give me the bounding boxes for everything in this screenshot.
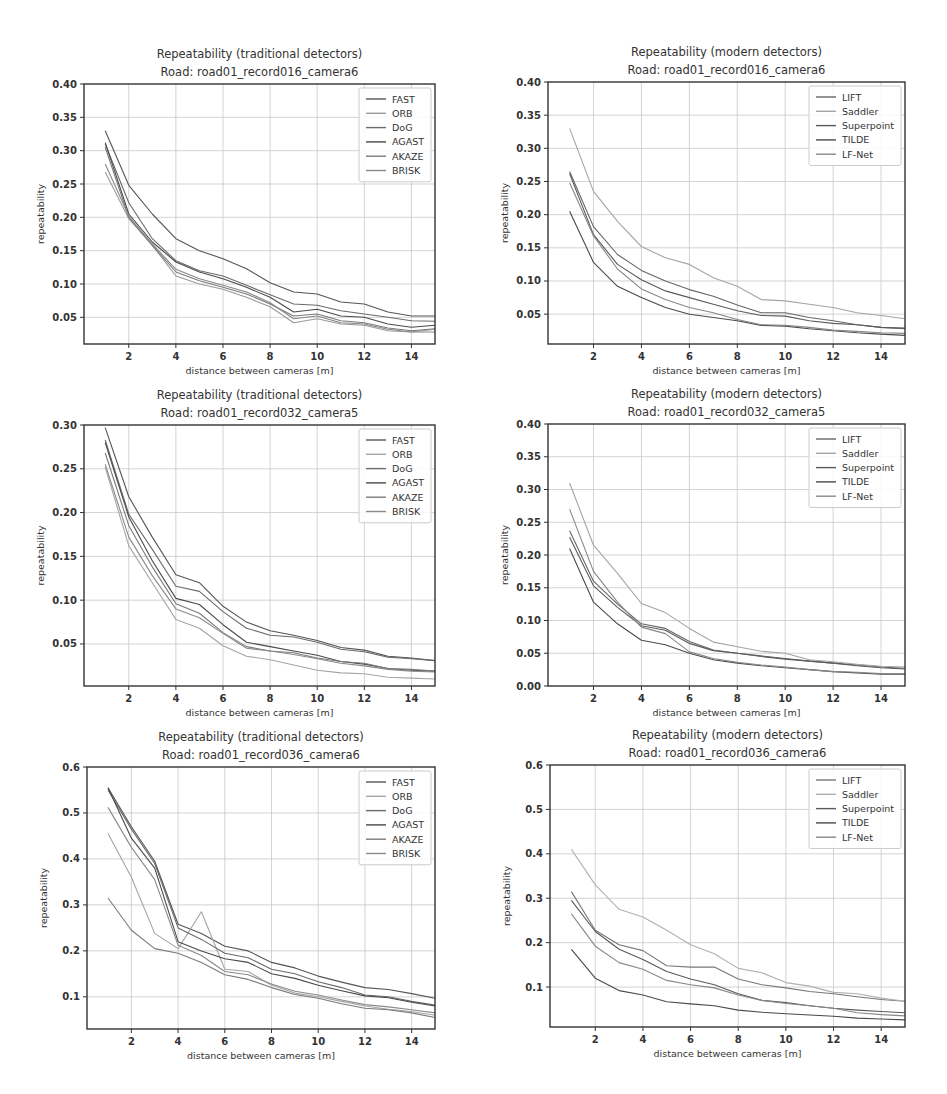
y-tick-label: 0.35: [516, 451, 541, 462]
legend-entry: Superpoint: [842, 120, 894, 131]
legend-entry: BRISK: [392, 848, 421, 859]
y-tick-label: 0.35: [516, 110, 541, 121]
chart-subtitle: Road: road01_record036_camera6: [629, 746, 827, 760]
legend: LIFTSaddlerSuperpointTILDELF-Net: [809, 769, 901, 849]
x-tick-label: 2: [590, 693, 597, 704]
y-axis-label: repeatability: [35, 184, 46, 244]
x-tick-label: 6: [687, 1034, 694, 1045]
y-axis-label: repeatability: [499, 525, 510, 585]
x-tick-label: 8: [735, 1034, 742, 1045]
y-tick-label: 0.20: [52, 212, 77, 223]
x-tick-label: 12: [826, 693, 840, 704]
x-tick-label: 8: [734, 693, 741, 704]
x-tick-label: 2: [592, 1034, 599, 1045]
y-tick-label: 0.20: [516, 209, 541, 220]
chart-panel: Repeatability (modern detectors)Road: ro…: [494, 717, 915, 1063]
y-tick-label: 0.40: [52, 79, 77, 90]
x-tick-label: 8: [267, 693, 274, 704]
legend-entry: LIFT: [842, 92, 861, 103]
legend-entry: DoG: [392, 805, 413, 816]
y-tick-label: 0.10: [52, 595, 77, 606]
x-tick-label: 4: [172, 351, 179, 362]
legend-entry: AKAZE: [392, 492, 424, 503]
x-tick-label: 12: [357, 693, 371, 704]
y-tick-label: 0.2: [525, 937, 543, 948]
chart-subtitle: Road: road01_record036_camera6: [162, 748, 360, 762]
y-tick-label: 0.30: [516, 484, 541, 495]
legend-entry: LF-Net: [842, 832, 873, 843]
legend-entry: AGAST: [392, 136, 424, 147]
y-tick-label: 0.3: [525, 893, 543, 904]
x-tick-label: 10: [310, 693, 324, 704]
x-tick-label: 2: [128, 1036, 135, 1047]
y-tick-label: 0.10: [516, 275, 541, 286]
y-axis-label: repeatability: [499, 183, 510, 243]
legend-entry: AGAST: [392, 477, 424, 488]
x-tick-label: 12: [827, 1034, 841, 1045]
chart-subtitle: Road: road01_record016_camera6: [628, 63, 826, 77]
x-tick-label: 4: [638, 351, 645, 362]
chart-panel: Repeatability (traditional detectors)Roa…: [28, 377, 445, 722]
x-tick-label: 2: [125, 693, 132, 704]
x-tick-label: 4: [638, 693, 645, 704]
x-tick-label: 8: [267, 351, 274, 362]
chart-title: Repeatability (traditional detectors): [157, 47, 363, 61]
y-tick-label: 0.30: [516, 143, 541, 154]
x-tick-label: 10: [778, 351, 792, 362]
legend-entry: Saddler: [842, 789, 878, 800]
x-tick-label: 2: [125, 351, 132, 362]
legend-entry: LF-Net: [842, 149, 873, 160]
x-tick-label: 6: [220, 351, 227, 362]
legend-entry: FAST: [392, 435, 415, 446]
legend-entry: LIFT: [842, 775, 861, 786]
y-tick-label: 0.4: [525, 848, 543, 859]
legend-entry: DoG: [392, 122, 413, 133]
x-tick-label: 14: [404, 693, 418, 704]
chart-subtitle: Road: road01_record032_camera5: [628, 405, 826, 419]
y-axis-label: repeatability: [501, 866, 512, 926]
y-tick-label: 0.3: [62, 899, 80, 910]
legend-entry: BRISK: [392, 165, 421, 176]
x-tick-label: 14: [405, 1036, 419, 1047]
legend-entry: AKAZE: [392, 151, 424, 162]
x-tick-label: 14: [874, 1034, 888, 1045]
legend-entry: ORB: [392, 791, 413, 802]
chart-title: Repeatability (modern detectors): [632, 728, 823, 742]
x-axis-label: distance between cameras [m]: [186, 365, 334, 376]
y-tick-label: 0.25: [516, 176, 541, 187]
legend-entry: AGAST: [392, 819, 424, 830]
x-axis-label: distance between cameras [m]: [654, 1048, 802, 1059]
legend-entry: Superpoint: [842, 803, 894, 814]
legend: LIFTSaddlerSuperpointTILDELF-Net: [809, 428, 901, 508]
chart-title: Repeatability (traditional detectors): [158, 730, 364, 744]
legend-entry: ORB: [392, 108, 413, 119]
x-tick-label: 12: [357, 351, 371, 362]
legend-entry: AKAZE: [392, 834, 424, 845]
x-tick-label: 10: [779, 1034, 793, 1045]
chart-panel: Repeatability (modern detectors)Road: ro…: [492, 376, 915, 722]
legend-entry: FAST: [392, 94, 415, 105]
legend-entry: Saddler: [842, 448, 878, 459]
x-tick-label: 4: [639, 1034, 646, 1045]
x-tick-label: 6: [686, 693, 693, 704]
x-tick-label: 6: [221, 1036, 228, 1047]
legend: LIFTSaddlerSuperpointTILDELF-Net: [809, 86, 901, 166]
x-tick-label: 10: [310, 351, 324, 362]
legend-entry: TILDE: [841, 817, 869, 828]
y-tick-label: 0.6: [525, 760, 543, 771]
legend: FASTORBDoGAGASTAKAZEBRISK: [359, 429, 431, 523]
legend: FASTORBDoGAGASTAKAZEBRISK: [359, 771, 431, 865]
chart-panel: Repeatability (modern detectors)Road: ro…: [492, 34, 915, 380]
legend-entry: DoG: [392, 463, 413, 474]
legend-entry: Superpoint: [842, 462, 894, 473]
y-tick-label: 0.05: [52, 638, 77, 649]
y-tick-label: 0.30: [52, 145, 77, 156]
y-tick-label: 0.40: [516, 77, 541, 88]
y-tick-label: 0.15: [52, 551, 77, 562]
legend-entry: FAST: [392, 777, 415, 788]
y-tick-label: 0.15: [516, 242, 541, 253]
x-tick-label: 6: [220, 693, 227, 704]
x-tick-label: 4: [172, 693, 179, 704]
y-tick-label: 0.20: [516, 550, 541, 561]
y-tick-label: 0.05: [52, 312, 77, 323]
